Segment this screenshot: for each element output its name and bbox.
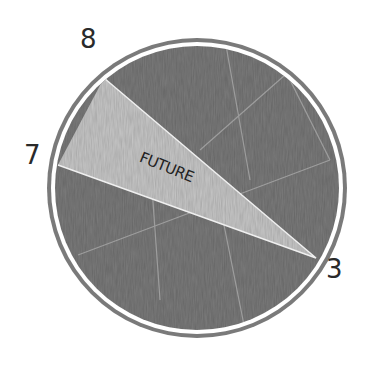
clock-number-7: 7 bbox=[24, 142, 41, 168]
clock-number-3: 3 bbox=[326, 256, 343, 282]
clock-number-8: 8 bbox=[80, 26, 97, 52]
